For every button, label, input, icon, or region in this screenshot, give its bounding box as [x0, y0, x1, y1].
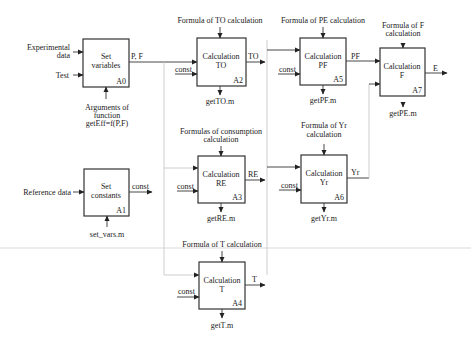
mechanism-a7: getPE.m — [389, 109, 417, 118]
mechanism-a4: getT.m — [211, 321, 234, 330]
idef0-diagram: Set variables A0 Experimental data Test … — [0, 0, 471, 346]
block-a3-code: A3 — [232, 193, 242, 202]
block-a2-title-2: TO — [216, 61, 227, 70]
control-a3-2: calculation — [203, 135, 238, 144]
block-a5-code: A5 — [333, 75, 343, 84]
block-a2-title-1: Calculation — [203, 52, 240, 61]
output-a4-label: T — [252, 275, 257, 284]
const-a4: const — [178, 287, 196, 296]
control-a6-1: Formula of Yr — [301, 121, 347, 130]
block-a6-title-2: Yr — [320, 178, 329, 187]
block-a2: Calculation TO A2 — [197, 38, 246, 86]
const-a3: const — [177, 182, 195, 191]
block-a3-title-2: RE — [216, 179, 226, 188]
mechanism-a1: set_vars.m — [90, 230, 125, 239]
block-a0-title-1: Set — [101, 52, 112, 61]
block-a4-code: A4 — [232, 299, 242, 308]
mechanism-a6: getYr.m — [311, 214, 338, 223]
const-a6: const — [281, 181, 299, 190]
mechanism-a3: getRE.m — [207, 214, 236, 223]
block-a4-title-1: Calculation — [204, 276, 241, 285]
block-a3-title-1: Calculation — [203, 170, 240, 179]
block-a0: Set variables A0 — [83, 39, 129, 87]
input-experimental-2: data — [57, 51, 71, 60]
block-a7: Calculation F A7 — [380, 48, 425, 96]
block-a6: Calculation Yr A6 — [301, 155, 347, 203]
block-a4-title-2: T — [220, 285, 225, 294]
block-a7-title-1: Calculation — [384, 62, 421, 71]
block-a1-code: A1 — [116, 206, 126, 215]
block-a5-title-2: PF — [319, 61, 328, 70]
output-a7-label: E — [433, 64, 438, 73]
input-test: Test — [56, 71, 70, 80]
control-a7-2: calculation — [385, 29, 420, 38]
output-a2-label: TO — [248, 52, 259, 61]
block-a2-code: A2 — [233, 76, 243, 85]
input-reference: Reference data — [23, 188, 71, 197]
block-a1-title-1: Set — [101, 182, 112, 191]
mechanism-a2: getTO.m — [206, 97, 235, 106]
block-a1: Set constants A1 — [84, 169, 129, 216]
control-a2: Formula of TO calculation — [177, 16, 262, 25]
block-a6-title-1: Calculation — [306, 169, 343, 178]
control-a5: Formula of PE calculation — [281, 16, 365, 25]
output-a1-label: const — [132, 182, 150, 191]
block-a3: Calculation RE A3 — [198, 156, 245, 203]
output-a5-label: PF — [351, 52, 360, 61]
block-a5-title-1: Calculation — [305, 52, 342, 61]
block-a0-code: A0 — [116, 77, 126, 86]
output-a3-label: RE — [248, 170, 258, 179]
mechanism-a0-3: getEff=f(P,F) — [86, 119, 129, 128]
block-a1-title-2: constants — [91, 191, 121, 200]
block-a0-title-2: variables — [92, 61, 121, 70]
const-a5: const — [279, 65, 297, 74]
block-a5: Calculation PF A5 — [300, 38, 346, 85]
mechanism-a5: getPF.m — [310, 96, 337, 105]
const-a2: const — [175, 65, 193, 74]
block-a6-code: A6 — [334, 193, 344, 202]
output-a6-label: Yr — [351, 168, 360, 177]
block-a7-code: A7 — [412, 86, 422, 95]
control-a4: Formula of T calculation — [182, 240, 261, 249]
control-a6-2: calculation — [306, 130, 341, 139]
block-a7-title-2: F — [400, 71, 405, 80]
block-a4: Calculation T A4 — [199, 262, 245, 309]
output-a0-label: P, F — [131, 52, 144, 61]
